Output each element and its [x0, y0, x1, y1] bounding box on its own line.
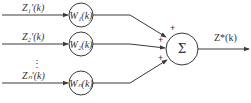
weight-label-n: Wₙ(k)	[69, 78, 93, 90]
sigma-symbol: Σ	[178, 42, 186, 56]
weighted-sum-diagram: Z₁′(k) W₁(k) + Z₂′(k) W₂(k) + ⋮ Zₙ′(k) W…	[0, 0, 251, 103]
input-label-1: Z₁′(k)	[22, 2, 45, 14]
weight-label-2: W₂(k)	[70, 39, 94, 51]
sign-2: +	[158, 35, 163, 45]
sign-n: +	[158, 53, 163, 63]
sign-1: +	[170, 23, 175, 33]
input-branch-2: Z₂′(k) W₂(k) +	[2, 31, 165, 56]
connector-n	[93, 60, 167, 83]
ellipsis: ⋮	[32, 58, 42, 69]
input-branch-n: Zₙ′(k) Wₙ(k) +	[2, 53, 167, 95]
weight-label-1: W₁(k)	[70, 10, 94, 22]
input-label-2: Z₂′(k)	[22, 31, 45, 43]
connector-1	[93, 15, 166, 37]
output-label: Z*(k)	[214, 32, 237, 44]
connector-2	[93, 44, 165, 48]
input-label-n: Zₙ′(k)	[22, 70, 46, 82]
